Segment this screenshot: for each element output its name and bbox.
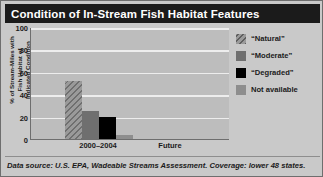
x-tick-label: 2000–2004 bbox=[79, 141, 117, 150]
chart-legend: “Natural”“Moderate”“Degraded”Not availab… bbox=[236, 31, 322, 99]
bar bbox=[116, 135, 133, 139]
legend-item-label: Not available bbox=[251, 85, 298, 94]
y-tick-label: 60 bbox=[20, 68, 28, 77]
gridline bbox=[31, 28, 229, 30]
y-tick-label: 0 bbox=[24, 136, 28, 145]
gridline bbox=[31, 118, 229, 120]
y-axis-tick-labels: 100806040200 bbox=[8, 28, 28, 140]
x-tick-label: Future bbox=[158, 141, 181, 150]
legend-swatch-icon bbox=[236, 34, 246, 44]
legend-item[interactable]: “Degraded” bbox=[236, 65, 322, 80]
plot-area bbox=[30, 28, 229, 140]
footer-source-note: Data source: U.S. EPA, Wadeable Streams … bbox=[7, 161, 319, 170]
gridline bbox=[31, 50, 229, 52]
chart-figure: Condition of In-Stream Fish Habitat Feat… bbox=[0, 0, 323, 177]
chart-title-bar: Condition of In-Stream Fish Habitat Feat… bbox=[5, 4, 320, 23]
y-tick-label: 20 bbox=[20, 113, 28, 122]
bar bbox=[99, 117, 116, 139]
page-title: Condition of In-Stream Fish Habitat Feat… bbox=[11, 8, 259, 20]
legend-item-label: “Degraded” bbox=[251, 68, 294, 77]
y-tick-label: 100 bbox=[15, 24, 28, 33]
legend-item[interactable]: “Natural” bbox=[236, 31, 322, 46]
legend-swatch-icon bbox=[236, 85, 246, 95]
y-tick-label: 80 bbox=[20, 46, 28, 55]
gridline bbox=[31, 73, 229, 75]
bar bbox=[82, 111, 99, 139]
legend-item[interactable]: Not available bbox=[236, 82, 322, 97]
bar bbox=[65, 81, 82, 139]
legend-item-label: “Moderate” bbox=[251, 51, 292, 60]
legend-swatch-icon bbox=[236, 51, 246, 61]
x-axis-tick-labels: 2000–2004Future bbox=[30, 141, 229, 153]
y-tick-label: 40 bbox=[20, 91, 28, 100]
footer-divider bbox=[5, 156, 320, 157]
legend-item-label: “Natural” bbox=[251, 34, 285, 43]
plot-wrapper: 100806040200 bbox=[30, 28, 229, 140]
gridline bbox=[31, 95, 229, 97]
legend-item[interactable]: “Moderate” bbox=[236, 48, 322, 63]
legend-swatch-icon bbox=[236, 68, 246, 78]
